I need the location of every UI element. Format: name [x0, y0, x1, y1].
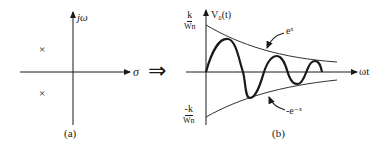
- panel-a-caption: (a): [64, 128, 76, 139]
- time-response-plot: [186, 10, 357, 125]
- upper-envelope-leader: [267, 33, 284, 48]
- lower-bound-label: -k Wn: [183, 104, 195, 125]
- upper-bound-label: k Wn: [184, 10, 196, 31]
- upper-envelope-curve: [206, 25, 337, 62]
- lower-bound-denominator: Wn: [183, 116, 195, 125]
- upper-envelope-label: eˣ: [286, 26, 293, 36]
- damped-oscillation-curve: [206, 39, 322, 98]
- panel-b-caption: (b): [272, 128, 285, 139]
- wt-axis-label: ωt: [359, 66, 369, 77]
- pole-marker-lower: ×: [39, 88, 45, 99]
- lower-bound-numerator: -k: [185, 104, 193, 116]
- lower-envelope-leader: [269, 97, 285, 110]
- v0-axis-label: V₀(t): [211, 10, 231, 20]
- upper-bound-numerator: k: [187, 10, 192, 22]
- upper-bound-denominator: Wn: [184, 22, 196, 31]
- imag-axis-label: jω: [77, 12, 88, 23]
- lower-envelope-curve: [206, 80, 337, 117]
- lower-envelope-label: -e⁻ˣ: [286, 106, 302, 116]
- pole-marker-upper: ×: [39, 44, 45, 55]
- real-axis-label: σ: [133, 66, 139, 78]
- s-plane: [20, 12, 130, 125]
- implies-arrow-icon: ⇒: [148, 60, 166, 82]
